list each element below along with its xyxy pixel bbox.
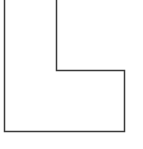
diagram-canvas — [0, 0, 143, 149]
l-shape-outline — [5, 0, 125, 132]
